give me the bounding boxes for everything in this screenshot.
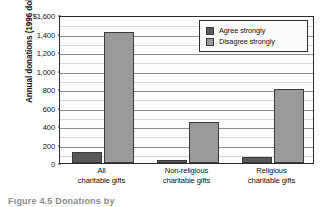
y-axis-tick-label: 800 (43, 86, 55, 95)
figure-caption-text: Figure 4.5 Donations by (8, 198, 258, 206)
x-axis-category-label: Non-religiouscharitable gifts (144, 166, 229, 185)
figure-caption: Figure 4.5 Donations by (8, 198, 258, 207)
x-axis-category-label: Religiouscharitable gifts (229, 166, 314, 185)
legend-swatch-disagree-strongly (206, 38, 214, 46)
bar-group (60, 17, 145, 163)
y-axis-tick-label: 200 (43, 141, 55, 150)
legend-label-disagree-strongly: Disagree strongly (219, 37, 275, 46)
legend-label-agree-strongly: Agree strongly (219, 26, 265, 35)
x-axis-category-labels: Allcharitable giftsNon-religiouscharitab… (59, 166, 314, 192)
bar-disagree (104, 32, 134, 163)
y-axis-tick-label: $1,600 (33, 12, 55, 21)
bar-disagree (274, 89, 304, 163)
y-axis-tick-label: 1,200 (37, 49, 55, 58)
y-axis-tick-label: 400 (43, 123, 55, 132)
figure-container: Annual donations (1996 dollars) 02004006… (0, 0, 327, 207)
x-axis-category-label: Allcharitable gifts (59, 166, 144, 185)
bar-disagree (189, 122, 219, 163)
y-axis-tick-label: 1,400 (37, 30, 55, 39)
y-axis-tick-label: 600 (43, 104, 55, 113)
bar-agree (157, 160, 187, 163)
chart-legend: Agree strongly Disagree strongly (199, 20, 308, 52)
legend-item-agree-strongly: Agree strongly (206, 25, 302, 36)
y-axis-tick-label: 0 (51, 160, 55, 169)
y-axis-tick-labels: 02004006008001,0001,2001,400$1,600 (26, 16, 58, 164)
legend-swatch-agree-strongly (206, 27, 214, 35)
bar-agree (72, 152, 102, 163)
bar-agree (242, 157, 272, 163)
legend-item-disagree-strongly: Disagree strongly (206, 36, 302, 47)
y-axis-tick-label: 1,000 (37, 67, 55, 76)
